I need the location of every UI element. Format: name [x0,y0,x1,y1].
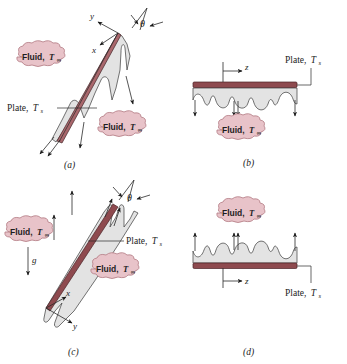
theta-label-a: θ [140,18,145,29]
theta-marker-a: θ [131,8,163,30]
axis-label-z-b: z [244,62,249,72]
callout-fluid-d-text: Fluid, T ∞ [222,208,261,219]
axis-marker-z-b: z [223,62,249,82]
plume-body-d [193,241,297,263]
panel-caption-d: (d) [243,347,254,358]
gravity-label-c: g [32,255,37,265]
callout-plate-c-text: Plate, T s [126,236,162,247]
callout-plate-d: Plate, T s [285,266,321,299]
callout-fluid-c-1: Fluid, T ∞ [5,216,53,242]
callout-fluid-b: Fluid, T ∞ [217,114,265,140]
figure-root: y x θ Fluid, T ∞ [0,0,347,364]
plate-bar-b [193,82,297,88]
panel-d: z Plate, T s Fluid, T ∞ (d) [175,175,347,364]
callout-fluid-a-1: Fluid, T ∞ [17,41,65,67]
axis-marker-z-d: z [223,268,249,288]
gravity-vector-c: g [28,247,37,275]
axis-label-x-c: x [65,288,70,298]
callout-fluid-c-2-text: Fluid, T ∞ [96,264,135,275]
plume-body-b [193,88,297,110]
callout-fluid-d: Fluid, T ∞ [217,197,265,223]
callout-fluid-c-1-text: Fluid, T ∞ [10,227,49,238]
callout-fluid-b-text: Fluid, T ∞ [222,125,261,136]
callout-plate-a-text: Plate, T s [7,103,43,114]
theta-marker-c: θ [113,180,150,203]
axis-label-y-c: y [72,321,77,331]
callout-plate-d-text: Plate, T s [285,288,321,299]
callout-fluid-a-2-text: Fluid, T ∞ [103,122,142,133]
callout-plate-b-text: Plate, T s [285,55,321,66]
callout-fluid-a-1-text: Fluid, T ∞ [22,52,61,63]
plate-bar-d [193,263,297,269]
callout-plate-b: Plate, T s [285,55,321,85]
panel-c: x y θ g Fluid, T [0,175,175,364]
axis-label-y-a: y [89,11,94,21]
callout-fluid-c-2: Fluid, T ∞ [91,253,139,279]
panel-caption-b: (b) [243,158,254,169]
panel-a: y x θ Fluid, T ∞ [0,0,175,175]
panel-b: z Plate, T s Fluid, T ∞ (b) [175,0,347,175]
panel-caption-a: (a) [64,160,75,171]
axis-label-x-a: x [91,45,96,55]
callout-fluid-a-2: Fluid, T ∞ [98,111,146,137]
theta-label-c: θ [127,192,132,203]
panel-caption-c: (c) [68,347,79,358]
axis-label-z-d: z [244,276,249,286]
